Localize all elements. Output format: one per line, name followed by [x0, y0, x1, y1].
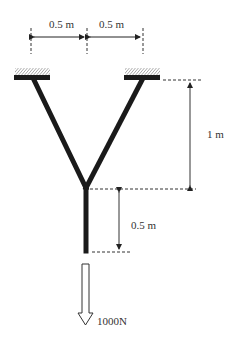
members — [34, 80, 142, 251]
upper-height-label: 1 m — [207, 128, 224, 140]
diagram-graphic — [0, 0, 238, 343]
lower-height-label: 0.5 m — [131, 219, 156, 231]
span-right-label: 0.5 m — [99, 18, 124, 30]
load-arrow-icon — [78, 264, 93, 325]
span-left-label: 0.5 m — [49, 18, 74, 30]
load-label: 1000N — [97, 315, 127, 327]
top-dimension-lines — [31, 28, 143, 54]
structure-diagram: 0.5 m 0.5 m 1 m 0.5 m 1000N — [0, 0, 238, 343]
